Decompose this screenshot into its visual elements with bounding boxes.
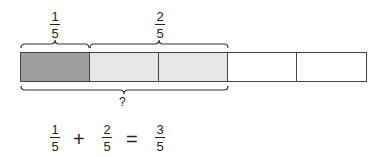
brace-two-fifths	[90, 40, 228, 48]
denominator: 5	[156, 140, 163, 153]
plus-sign: +	[73, 129, 85, 149]
fraction-bar	[50, 137, 60, 138]
fraction-bar	[102, 137, 112, 138]
equals-sign: =	[126, 129, 138, 149]
brace-one-fifth	[21, 40, 89, 48]
segment-1	[20, 52, 91, 82]
segment-4	[227, 52, 298, 82]
denominator: 5	[103, 140, 110, 153]
segment-3	[158, 52, 229, 82]
segment-5	[296, 52, 367, 82]
numerator: 2	[103, 123, 110, 136]
equation-result: 3 5	[153, 123, 167, 153]
numerator: 3	[156, 123, 163, 136]
equation-term-a: 1 5	[48, 123, 62, 153]
equation-term-b: 2 5	[100, 123, 114, 153]
denominator: 5	[51, 140, 58, 153]
unknown-label: ?	[119, 95, 126, 109]
fraction-bar	[155, 137, 165, 138]
segment-2	[89, 52, 160, 82]
brace-total	[21, 86, 228, 94]
numerator: 1	[51, 123, 58, 136]
